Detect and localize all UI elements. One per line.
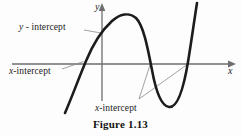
axis-label-x: x — [228, 66, 232, 76]
label-x-intercept-left: x-intercept — [9, 67, 51, 77]
label-y-intercept-text: - intercept — [23, 22, 65, 32]
leader-line-x-intercept-left — [62, 62, 84, 70]
label-x-intercept-right-text: -intercept — [99, 103, 136, 113]
polynomial-curve — [65, 3, 197, 113]
label-x-intercept-left-text: -intercept — [13, 66, 50, 76]
axis-label-y: y — [95, 2, 99, 12]
leader-line-y-intercept — [84, 30, 101, 33]
label-x-intercept-right: x-intercept — [95, 104, 137, 114]
figure-container: y x y - intercept x-intercept x-intercep… — [0, 0, 241, 136]
label-y-intercept: y - intercept — [19, 23, 66, 33]
y-axis — [99, 3, 106, 101]
leader-line-x-intercept-middle — [139, 65, 150, 99]
y-axis-arrow — [99, 3, 106, 11]
figure-caption: Figure 1.13 — [0, 119, 241, 130]
